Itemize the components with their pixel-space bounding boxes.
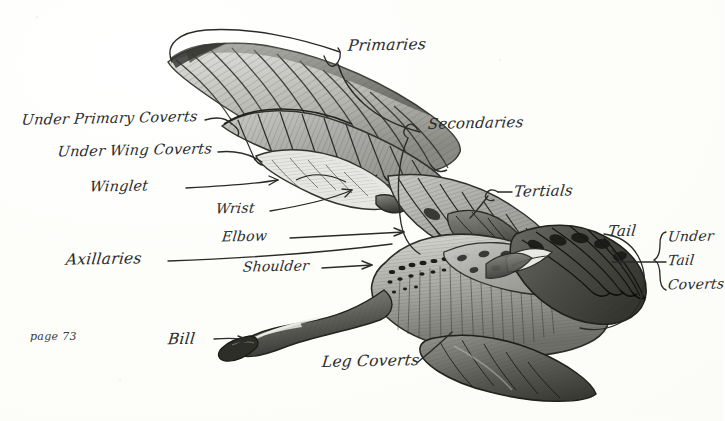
leader-tertials-tail	[470, 196, 488, 218]
leader-leg-coverts	[418, 332, 452, 362]
label-leg-coverts: Leg Coverts	[321, 351, 420, 371]
label-wrist: Wrist	[215, 200, 255, 217]
leader-under-wing-coverts	[218, 151, 262, 162]
label-under-tail-coverts-line2: Tail	[667, 252, 695, 269]
leader-under-primary-coverts-2	[232, 124, 239, 136]
arrowhook-tertials	[485, 190, 498, 201]
label-tail: Tail	[607, 222, 637, 241]
label-bill: Bill	[167, 330, 196, 349]
label-under-wing-coverts: Under Wing Coverts	[57, 140, 213, 159]
arrowhead-bill	[238, 336, 248, 344]
label-under-tail-coverts-line1: Under	[667, 228, 715, 245]
leader-winglet	[186, 180, 278, 188]
label-secondaries: Secondaries	[427, 113, 525, 133]
label-shoulder: Shoulder	[242, 257, 310, 274]
leader-elbow	[290, 232, 404, 238]
leader-under-primary-coverts	[205, 118, 232, 124]
label-under-tail-coverts-line3: Coverts	[667, 275, 725, 292]
leader-primaries-outer	[170, 30, 340, 62]
leader-secondaries	[398, 138, 420, 254]
label-axillaries: Axillaries	[65, 249, 143, 269]
leader-wrist	[270, 190, 352, 211]
leader-tail-stub	[612, 250, 622, 268]
page-number: page 73	[30, 330, 77, 343]
leader-primaries-lower	[338, 64, 420, 132]
label-winglet: Winglet	[89, 177, 149, 194]
leader-tail-loop	[580, 234, 644, 330]
brace-under-tail-coverts	[654, 232, 666, 290]
label-tertials: Tertials	[513, 181, 574, 200]
label-elbow: Elbow	[221, 228, 268, 245]
label-primaries: Primaries	[347, 35, 427, 55]
